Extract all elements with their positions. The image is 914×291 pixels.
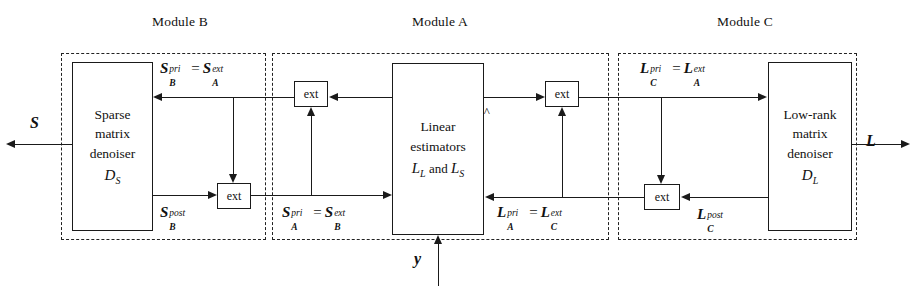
s-a-pri-lhs-sup: pri	[291, 208, 302, 218]
s-a-pri-rhs-sup: ext	[334, 208, 345, 218]
s-b-post-sub: B	[169, 222, 175, 232]
linear-op-s-base: L	[451, 160, 459, 176]
l-c-pri-branch-down	[661, 97, 662, 175]
label-observation-y: y	[414, 250, 421, 268]
s-b-post-line	[153, 195, 209, 196]
l-a-pri-arrowhead	[485, 193, 494, 201]
sparse-denoiser-operator: DS	[105, 165, 121, 188]
l-a-pri-lhs-sub: A	[507, 222, 513, 232]
diagram-canvas: Module B Module A Module C Sparse matrix…	[0, 0, 914, 291]
s-b-post-arrowhead	[208, 191, 217, 199]
label-l-hat: ^L	[866, 132, 914, 150]
s-b-pri-lhs-sup: pri	[169, 64, 180, 74]
s-b-pri-eq-sign: =	[188, 60, 202, 76]
s-b-pri-rhs-base: S	[203, 60, 211, 76]
linear-op-conjunction: and	[426, 161, 451, 176]
s-a-pri-eq-sign: =	[310, 204, 324, 220]
observation-y-arrowhead	[434, 235, 442, 244]
module-b-ext-node[interactable]: ext	[217, 183, 251, 209]
s-b-pri-rhs-sup: ext	[212, 64, 223, 74]
l-a-pri-rhs-sup: ext	[551, 208, 562, 218]
module-b-title: Module B	[120, 14, 240, 30]
low-rank-matrix-denoiser-box: Low-rank matrix denoiser DL	[768, 62, 852, 231]
observation-y-line	[438, 244, 439, 286]
s-a-pri-arrowhead	[383, 191, 392, 199]
l-c-pri-lhs-base: L	[640, 60, 649, 76]
linear-to-right-ext-arrowhead	[536, 93, 545, 101]
sparse-matrix-denoiser-box: Sparse matrix denoiser DS	[72, 62, 153, 231]
s-hat-symbol: S	[30, 114, 39, 131]
s-hat-circumflex: ^	[484, 104, 490, 120]
lowrank-denoiser-operator: DL	[802, 165, 818, 188]
module-a-right-ext-label: ext	[555, 87, 570, 102]
s-a-pri-lhs-base: S	[282, 204, 290, 220]
l-c-pri-rhs-sub: A	[694, 78, 700, 88]
linear-op-s-sub: S	[459, 167, 464, 178]
l-hat-symbol: L	[866, 132, 876, 149]
l-a-pri-eq-sign: =	[526, 204, 540, 220]
linear-to-left-ext-arrowhead	[329, 93, 338, 101]
s-b-pri-arrowhead	[153, 93, 162, 101]
s-b-post-sup: post	[169, 208, 185, 218]
l-a-pri-lhs-sup: pri	[507, 208, 518, 218]
l-c-pri-branch-arrowhead	[657, 175, 665, 184]
l-c-pri-lhs-sub: C	[650, 78, 656, 88]
l-a-pri-rhs-sub: C	[551, 222, 557, 232]
label-l-a-pri-eq-l-c-ext: LpriA=LextC	[497, 204, 550, 221]
label-s-b-pri-eq-s-a-ext: SpriB=SextA	[160, 60, 211, 77]
l-a-pri-lhs-base: L	[497, 204, 506, 220]
linear-op-l-base: L	[412, 160, 420, 176]
s-hat-output-arrowhead	[6, 140, 15, 148]
s-a-pri-rhs-base: S	[325, 204, 333, 220]
linear-estimators-box: Linear estimators LL and LS	[392, 63, 484, 235]
module-a-right-ext-node[interactable]: ext	[545, 81, 579, 107]
label-s-a-pri-eq-s-b-ext: SpriA=SextB	[282, 204, 333, 221]
s-a-pri-line	[251, 195, 384, 196]
l-c-post-arrowhead	[681, 193, 690, 201]
l-c-pri-line	[579, 97, 759, 98]
lowrank-denoiser-op-sub: L	[813, 174, 819, 185]
label-s-b-post: SpostB	[160, 204, 168, 221]
module-b-ext-label: ext	[227, 189, 242, 204]
s-b-pri-branch-down	[233, 97, 234, 174]
linear-estimators-operators: LL and LS	[412, 158, 465, 181]
s-b-pri-branch-arrowhead	[229, 174, 237, 183]
s-a-pri-rhs-sub: B	[334, 222, 340, 232]
linear-estimators-line2: estimators	[410, 137, 466, 156]
sparse-denoiser-op-sub: S	[115, 174, 120, 185]
s-b-pri-lhs-base: S	[160, 60, 168, 76]
lowrank-denoiser-line3: denoiser	[787, 144, 833, 163]
linear-to-left-ext-line	[337, 97, 392, 98]
module-a-left-ext-label: ext	[304, 87, 319, 102]
sparse-denoiser-line3: denoiser	[90, 144, 136, 163]
l-c-pri-rhs-base: L	[684, 60, 693, 76]
module-a-title: Module A	[380, 14, 500, 30]
l-c-pri-lhs-sup: pri	[650, 64, 661, 74]
l-a-pri-rhs-base: L	[541, 204, 550, 220]
module-c-ext-node[interactable]: ext	[644, 184, 680, 210]
label-s-hat: ^S	[30, 114, 914, 132]
l-c-post-base: L	[697, 206, 706, 222]
s-a-pri-lhs-sub: A	[291, 222, 297, 232]
l-c-post-line	[689, 197, 768, 198]
l-c-post-sub: C	[707, 224, 713, 234]
module-c-title: Module C	[685, 14, 805, 30]
l-c-pri-arrowhead	[758, 93, 767, 101]
lowrank-denoiser-op-base: D	[802, 167, 813, 183]
label-l-c-post: LpostC	[697, 206, 706, 223]
s-b-pri-lhs-sub: B	[169, 78, 175, 88]
sparse-denoiser-op-base: D	[105, 167, 116, 183]
label-l-c-pri-eq-l-a-ext: LpriC=LextA	[640, 60, 693, 77]
s-b-post-base: S	[160, 204, 168, 220]
s-b-pri-rhs-sub: A	[212, 78, 218, 88]
l-c-pri-eq-sign: =	[669, 60, 683, 76]
observation-y-symbol: y	[414, 250, 421, 267]
module-a-left-ext-node[interactable]: ext	[294, 81, 328, 107]
module-c-ext-label: ext	[655, 190, 670, 205]
l-a-pri-line	[493, 197, 644, 198]
s-hat-output-line	[14, 144, 72, 145]
l-c-post-sup: post	[707, 210, 723, 220]
linear-to-right-ext-line	[484, 97, 537, 98]
l-c-pri-rhs-sup: ext	[694, 64, 705, 74]
s-b-pri-line	[161, 97, 294, 98]
